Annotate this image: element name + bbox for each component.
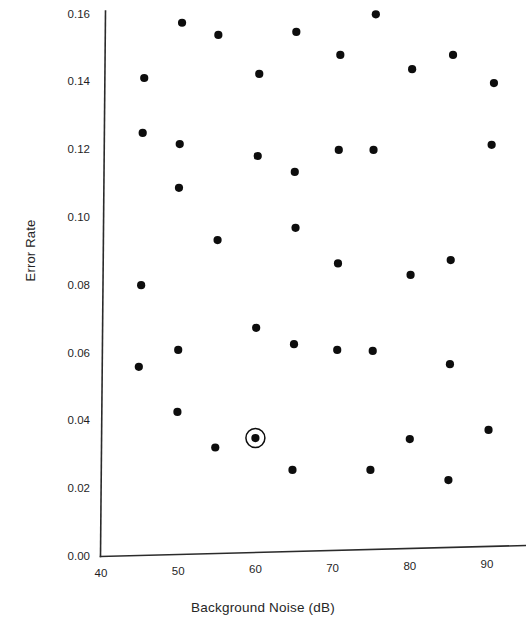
data-point bbox=[137, 281, 145, 289]
data-point bbox=[334, 259, 342, 267]
data-point bbox=[336, 51, 344, 59]
data-point bbox=[211, 443, 219, 451]
data-point bbox=[214, 31, 222, 39]
x-axis-line bbox=[101, 546, 526, 557]
data-point bbox=[335, 146, 343, 154]
data-point bbox=[290, 340, 298, 348]
data-point bbox=[175, 184, 183, 192]
data-point bbox=[446, 360, 454, 368]
data-point bbox=[288, 466, 296, 474]
plot-area bbox=[0, 0, 526, 638]
data-point bbox=[292, 28, 300, 36]
data-point bbox=[255, 70, 263, 78]
data-point bbox=[291, 224, 299, 232]
data-point bbox=[484, 426, 492, 434]
data-point bbox=[135, 363, 143, 371]
data-point bbox=[372, 10, 380, 18]
data-point bbox=[213, 236, 221, 244]
data-point bbox=[140, 74, 148, 82]
data-point bbox=[369, 347, 377, 355]
data-point bbox=[251, 434, 259, 442]
data-point bbox=[444, 476, 452, 484]
data-point bbox=[254, 152, 262, 160]
data-point bbox=[178, 19, 186, 27]
data-point bbox=[449, 51, 457, 59]
data-point bbox=[333, 346, 341, 354]
data-point bbox=[252, 324, 260, 332]
data-point bbox=[447, 256, 455, 264]
y-axis-line bbox=[101, 11, 106, 557]
data-point bbox=[490, 79, 498, 87]
data-point bbox=[174, 346, 182, 354]
data-points-layer bbox=[135, 10, 498, 484]
scatter-plot-figure: Error Rate Background Noise (dB) 0.000.0… bbox=[0, 0, 526, 638]
data-point bbox=[406, 271, 414, 279]
data-point bbox=[176, 140, 184, 148]
data-point bbox=[139, 129, 147, 137]
data-point bbox=[406, 435, 414, 443]
data-point bbox=[369, 146, 377, 154]
data-point bbox=[291, 168, 299, 176]
data-point bbox=[488, 141, 496, 149]
data-point bbox=[408, 65, 416, 73]
data-point bbox=[366, 466, 374, 474]
data-point bbox=[173, 408, 181, 416]
